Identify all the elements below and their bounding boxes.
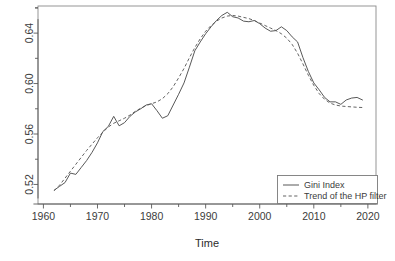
chart-figure: 0.520.560.600.64 19601970198019902000201… [0,0,395,261]
chart-legend: Gini Index Trend of the HP filter [278,176,387,204]
gini-index-line-chart: 0.520.560.600.64 19601970198019902000201… [0,0,395,261]
x-axis-tick-label: 1960 [32,210,56,222]
x-axis-tick-label: 1980 [140,210,164,222]
y-axis-tick-label: 0.56 [23,124,35,145]
x-axis-title: Time [195,237,219,249]
x-axis-tick-label: 2000 [248,210,272,222]
x-axis-tick-label: 1970 [86,210,110,222]
legend-label-hp-filter-trend: Trend of the HP filter [304,191,387,201]
x-axis-tick-label: 2020 [356,210,380,222]
legend-label-gini-index: Gini Index [304,180,345,190]
y-axis-tick-label: 0.52 [23,174,35,195]
y-axis-tick-label: 0.60 [23,73,35,94]
x-axis-tick-label: 1990 [194,210,218,222]
x-axis-tick-label: 2010 [302,210,326,222]
y-axis-tick-label: 0.64 [23,23,35,44]
